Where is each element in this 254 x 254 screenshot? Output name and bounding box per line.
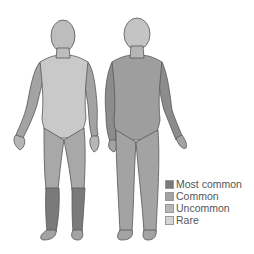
legend-label: Most common [176,178,242,190]
back-left-foot [118,230,133,240]
legend-label: Common [176,190,219,202]
back-torso [112,55,162,140]
front-right-hand [90,136,99,152]
front-neck [56,48,70,58]
back-right-hand [176,135,187,148]
legend-label: Rare [176,214,199,226]
back-right-leg [136,130,159,232]
front-left-shin [46,188,60,232]
legend-item-most-common: Most common [165,178,242,190]
back-right-foot [143,230,156,240]
swatch-most-common [165,180,174,189]
front-body-figure [14,20,99,240]
back-left-leg [116,130,136,232]
back-right-arm [158,62,182,140]
legend: Most common Common Uncommon Rare [165,178,242,226]
back-neck [130,46,144,58]
legend-label: Uncommon [176,202,230,214]
front-head [51,20,75,52]
front-torso [40,55,88,138]
swatch-rare [165,216,174,225]
front-left-arm [16,62,45,140]
front-right-shin [72,188,85,232]
back-head [124,18,150,50]
legend-item-rare: Rare [165,214,242,226]
front-right-foot [72,230,83,240]
legend-item-common: Common [165,190,242,202]
swatch-common [165,192,174,201]
front-left-foot [41,230,57,240]
swatch-uncommon [165,204,174,213]
back-left-hand [109,140,117,152]
legend-item-uncommon: Uncommon [165,202,242,214]
